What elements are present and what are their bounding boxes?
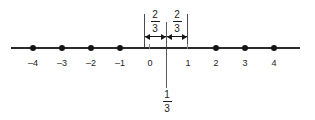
axis-point-3	[242, 45, 248, 51]
axis-point-4	[271, 45, 277, 51]
number-line-diagram: 2 3 2 3 –4 –3 –2 –1 0 1 2 3 4 1 3	[0, 0, 315, 120]
marked-value-label: 1 3	[156, 89, 178, 114]
fraction-bar	[173, 21, 182, 22]
axis-label-0: 0	[140, 58, 160, 68]
axis-label-minus-4: –4	[23, 58, 43, 68]
axis-tick-1	[187, 44, 188, 49]
fraction-denominator: 3	[156, 103, 178, 114]
fraction-bar	[151, 21, 160, 22]
axis-point-minus-3	[59, 45, 65, 51]
fraction-numerator: 2	[144, 9, 166, 20]
fraction-numerator: 1	[156, 89, 178, 100]
measure-label-right: 2 3	[166, 9, 188, 34]
axis-label-minus-3: –3	[52, 58, 72, 68]
axis-point-minus-1	[117, 45, 123, 51]
axis-label-minus-1: –1	[110, 58, 130, 68]
arrow-head-left-start	[145, 34, 150, 40]
number-line-axis	[11, 47, 300, 49]
fraction-denominator: 3	[166, 23, 188, 34]
axis-point-2	[213, 45, 219, 51]
axis-point-minus-2	[88, 45, 94, 51]
axis-label-3: 3	[235, 58, 255, 68]
axis-tick-0	[149, 44, 150, 49]
fraction-bar	[163, 101, 172, 102]
axis-label-2: 2	[206, 58, 226, 68]
measure-label-left: 2 3	[144, 9, 166, 34]
axis-label-1: 1	[178, 58, 198, 68]
reference-line-left	[144, 14, 145, 48]
fraction-numerator: 2	[166, 9, 188, 20]
axis-label-minus-2: –2	[81, 58, 101, 68]
reference-line-right	[187, 14, 188, 48]
arrow-head-right-end	[182, 34, 187, 40]
arrow-head-right-start	[167, 34, 172, 40]
axis-point-minus-4	[30, 45, 36, 51]
arrow-head-left-end	[161, 34, 166, 40]
fraction-denominator: 3	[144, 23, 166, 34]
reference-line-center	[166, 22, 167, 88]
axis-label-4: 4	[264, 58, 284, 68]
